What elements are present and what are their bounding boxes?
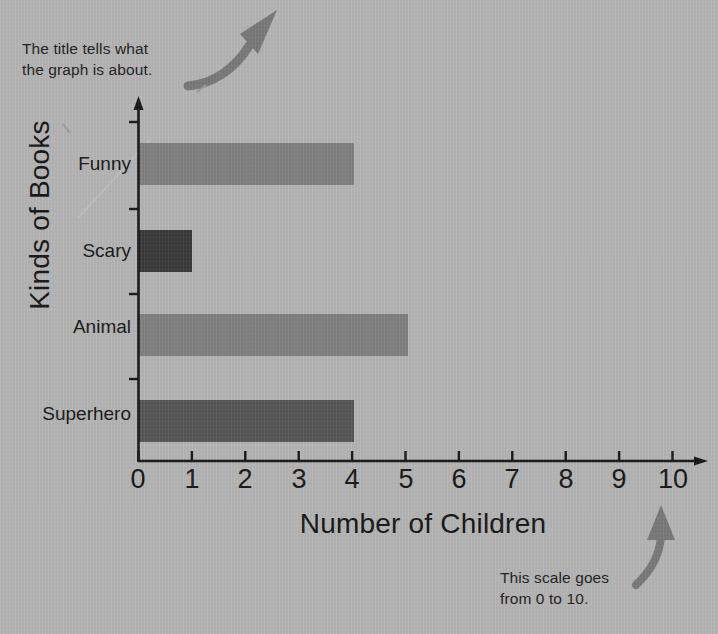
bar-scary xyxy=(138,230,192,272)
category-label-animal: Animal xyxy=(73,317,131,336)
bar-chart: The title tells what the graph is about.… xyxy=(0,0,718,634)
y-axis-title-container: Kinds of Books xyxy=(20,90,60,340)
x-tick-label-2: 2 xyxy=(237,466,252,493)
x-tick-label-3: 3 xyxy=(291,466,306,493)
x-tick-label-0: 0 xyxy=(130,466,145,493)
bar-funny xyxy=(138,143,354,185)
x-tick-label-1: 1 xyxy=(184,466,199,493)
x-tick-label-10: 10 xyxy=(658,466,688,493)
category-label-scary: Scary xyxy=(82,241,131,260)
x-tick-label-4: 4 xyxy=(344,466,359,493)
category-label-superhero: Superhero xyxy=(42,404,131,423)
x-tick-label-6: 6 xyxy=(451,466,466,493)
y-axis-title: Kinds of Books xyxy=(20,90,60,340)
category-label-funny: Funny xyxy=(78,154,131,173)
x-axis-ticks xyxy=(139,451,673,461)
x-tick-label-9: 9 xyxy=(611,466,626,493)
pointer-arrow-top xyxy=(188,10,277,86)
x-axis-title: Number of Children xyxy=(138,508,708,540)
x-tick-label-5: 5 xyxy=(398,466,413,493)
bar-superhero xyxy=(138,400,354,442)
bar-animal xyxy=(138,314,408,356)
x-tick-label-8: 8 xyxy=(558,466,573,493)
bars-group xyxy=(138,143,408,442)
pencil-mark-y-axis xyxy=(63,124,70,133)
x-tick-label-7: 7 xyxy=(504,466,519,493)
